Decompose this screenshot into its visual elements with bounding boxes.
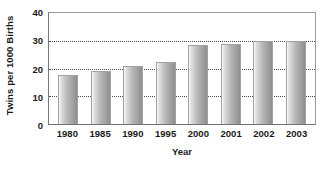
y-tick-label: 40 [32,7,43,18]
bars-layer [49,13,315,124]
y-tick-label: 10 [32,91,43,102]
y-axis-tick-labels: 40 30 20 10 0 [20,12,46,125]
x-tick-label: 2001 [217,128,245,144]
x-tick-label: 2003 [283,128,311,144]
y-axis-title: Twins per 1000 Births [0,0,20,130]
bar [253,41,273,124]
bar [58,75,78,124]
bar [221,44,241,124]
y-tick-label: 0 [38,120,43,131]
x-axis-tick-labels: 1980 1985 1990 1995 2000 2001 2002 2003 [48,128,316,144]
bar [156,62,176,124]
x-tick-label: 1995 [152,128,180,144]
bar-chart-figure: Twins per 1000 Births 40 30 20 10 0 1980… [0,0,327,171]
x-tick-label: 1980 [53,128,81,144]
x-tick-label: 1985 [86,128,114,144]
bar [123,66,143,124]
plot-area [48,12,316,125]
y-axis-title-text: Twins per 1000 Births [5,15,16,115]
x-tick-label: 2002 [250,128,278,144]
bar [188,45,208,124]
x-tick-label: 2000 [184,128,212,144]
bar [286,41,306,124]
x-axis-title: Year [48,146,316,157]
y-tick-label: 30 [32,35,43,46]
bar [91,71,111,124]
y-tick-label: 20 [32,63,43,74]
x-tick-label: 1990 [119,128,147,144]
